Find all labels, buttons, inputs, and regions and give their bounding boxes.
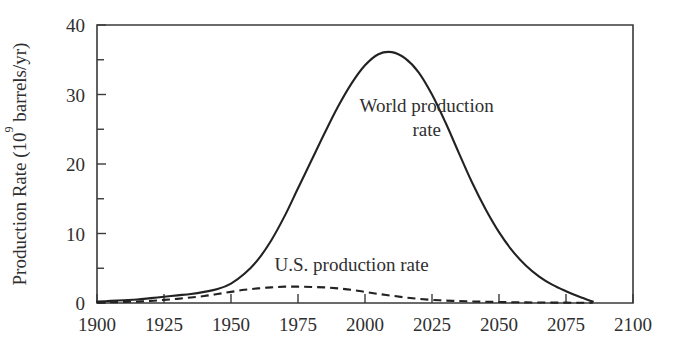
x-tick-label-2050: 2050: [480, 314, 518, 335]
us-annotation-line-1: U.S. production rate: [275, 254, 429, 275]
x-tick-label-1925: 1925: [145, 314, 183, 335]
x-tick-label-1975: 1975: [279, 314, 317, 335]
y-tick-label-40: 40: [66, 15, 85, 36]
world-annotation-line-2: rate: [412, 119, 440, 140]
y-tick-label-10: 10: [66, 224, 85, 245]
y-tick-label-20: 20: [66, 154, 85, 175]
y-tick-label-0: 0: [76, 293, 86, 314]
x-tick-label-1950: 1950: [212, 314, 250, 335]
y-axis-title-prefix: Production Rate (10: [9, 132, 31, 285]
x-tick-label-1900: 1900: [78, 314, 116, 335]
x-axis-tick-labels: 190019251950197520002025205020752100: [78, 314, 652, 335]
figure-page: 190019251950197520002025205020752100 010…: [0, 0, 686, 343]
chart-background: [0, 0, 686, 343]
y-axis-title-suffix: barrels/yr): [9, 43, 31, 127]
y-tick-label-30: 30: [66, 85, 85, 106]
us-annotation: U.S. production rate: [275, 254, 429, 275]
x-tick-label-2025: 2025: [413, 314, 451, 335]
world-annotation-line-1: World production: [360, 95, 495, 116]
x-tick-label-2000: 2000: [346, 314, 384, 335]
x-tick-label-2100: 2100: [614, 314, 652, 335]
x-tick-label-2075: 2075: [547, 314, 585, 335]
production-rate-chart: 190019251950197520002025205020752100 010…: [0, 0, 686, 343]
